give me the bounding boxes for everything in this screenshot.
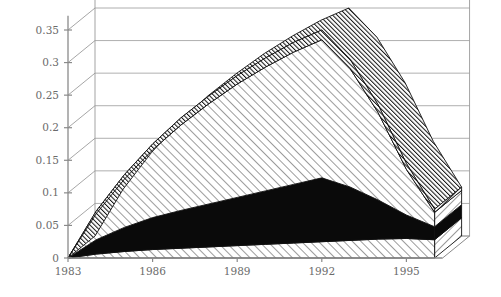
y-tick-label: 0.05 (36, 219, 59, 231)
depth-connector (68, 171, 95, 193)
x-tick-label: 1986 (139, 265, 166, 277)
y-tick-label: 0.35 (36, 24, 59, 36)
y-tick-label: 0.3 (42, 56, 59, 68)
depth-connector (68, 73, 95, 95)
x-tick-label: 1989 (224, 265, 251, 277)
depth-connector (68, 106, 95, 128)
x-tick-label: 1983 (55, 265, 82, 277)
area-chart-3d: 00.050.10.150.20.250.30.35 1983198619891… (0, 0, 501, 297)
y-tick-label: 0.15 (36, 154, 59, 166)
y-tick-label: 0.25 (36, 89, 59, 101)
depth-connector (68, 8, 95, 30)
depth-connector (68, 41, 95, 63)
y-tick-label: 0 (52, 252, 59, 264)
x-tick-label: 1995 (393, 265, 420, 277)
y-tick-label: 0.2 (42, 121, 59, 133)
depth-connector (68, 138, 95, 160)
x-tick-labels: 19831986198919921995 (55, 265, 420, 277)
x-tick-label: 1992 (308, 265, 335, 277)
y-tick-label: 0.1 (42, 186, 59, 198)
chart-container: 00.050.10.150.20.250.30.35 1983198619891… (0, 0, 501, 297)
y-tick-labels: 00.050.10.150.20.250.30.35 (36, 24, 59, 264)
